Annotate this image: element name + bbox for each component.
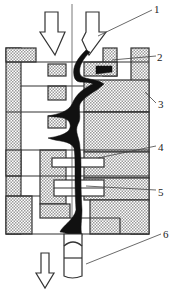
callout-6: 6 bbox=[163, 229, 169, 240]
inflow-arrow-left-icon bbox=[40, 12, 65, 55]
mold-cross-section bbox=[0, 0, 173, 291]
callout-3: 3 bbox=[158, 99, 164, 110]
diagram-canvas: 1 2 3 4 5 6 bbox=[0, 0, 173, 291]
leader-6 bbox=[86, 234, 161, 264]
callout-5: 5 bbox=[158, 187, 164, 198]
callout-4: 4 bbox=[158, 142, 164, 153]
leader-1 bbox=[98, 10, 152, 36]
callout-2: 2 bbox=[157, 52, 163, 63]
callout-1: 1 bbox=[154, 4, 160, 15]
outflow-arrow-icon bbox=[36, 253, 54, 288]
nozzle-part bbox=[64, 234, 82, 278]
inflow-arrows bbox=[40, 12, 106, 55]
